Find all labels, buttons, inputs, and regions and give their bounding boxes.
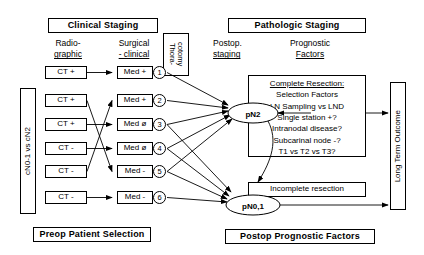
med-node-4-label: Med ø (124, 144, 147, 152)
path-number-1-label: 1 (157, 68, 161, 77)
med-node-2-label: Med + (124, 96, 146, 104)
med-node-4[interactable]: Med ø (117, 142, 153, 155)
left-axis-label: cN0-1 vs cN2 (24, 127, 32, 175)
complete-resection-item-4: Intranodal disease? (253, 123, 361, 134)
column-header-postop-line1: Postop. (213, 38, 261, 49)
complete-resection-item-2: LN Sampling vs LND (253, 101, 361, 112)
ct-node-6[interactable]: CT - (45, 191, 87, 204)
edge-4-pn01 (167, 149, 229, 197)
stage-node-pn01[interactable] (226, 195, 280, 215)
ct-node-2[interactable]: CT + (45, 94, 87, 107)
med-node-5[interactable]: Med - (117, 165, 153, 178)
path-number-1: 1 (153, 66, 166, 79)
column-header-radiographic-line2: graphic (40, 49, 96, 60)
clinical-staging-header-label: Clinical Staging (68, 21, 139, 30)
edge-2-pn2 (167, 101, 228, 109)
path-number-2-label: 2 (157, 96, 161, 105)
incomplete-resection-box: Incomplete resection (248, 182, 366, 197)
ct-node-2-label: CT + (57, 96, 74, 104)
ct-to-med-arrows (87, 73, 112, 198)
edge-4-pn2 (167, 115, 230, 149)
path-number-6: 6 (153, 191, 166, 204)
complete-resection-item-5: Subcarinal node -? (253, 135, 361, 146)
ct-node-6-label: CT - (58, 193, 73, 201)
path-number-4-label: 4 (157, 144, 161, 153)
footer-postop-label: Postop Prognostic Factors (240, 232, 360, 241)
med-to-stage-arrows (167, 73, 232, 203)
diagram-canvas: Clinical Staging Pathologic Staging Radi… (0, 0, 424, 255)
footer-postop-box: Postop Prognostic Factors (225, 229, 375, 244)
column-header-surgical-clinical: Surgical - clinical (103, 38, 165, 61)
column-header-postop-line2: staging (213, 49, 261, 60)
path-number-3-label: 3 (157, 120, 161, 129)
pathologic-staging-header-label: Pathologic Staging (254, 21, 339, 30)
path-number-4: 4 (153, 142, 166, 155)
footer-preop-label: Preop Patient Selection (39, 230, 144, 239)
med-node-5-label: Med - (125, 167, 145, 175)
complete-resection-item-6: T1 vs T2 vs T3? (253, 146, 361, 157)
incomplete-resection-label: Incomplete resection (270, 185, 344, 193)
edge-ct2-med5 (87, 101, 112, 172)
med-node-2[interactable]: Med + (117, 94, 153, 107)
med-node-3[interactable]: Med ø (117, 118, 153, 131)
ct-node-1[interactable]: CT + (45, 66, 87, 79)
path-number-5-label: 5 (157, 167, 161, 176)
ct-node-5[interactable]: CT - (45, 165, 87, 178)
footer-preop-box: Preop Patient Selection (33, 227, 151, 242)
edge-5-pn01 (167, 172, 227, 200)
right-axis-label: Long Term Outcome (394, 110, 402, 182)
ct-node-5-label: CT - (58, 167, 73, 175)
med-node-1-label: Med + (124, 68, 146, 76)
med-node-6-label: Med - (125, 193, 145, 201)
clinical-staging-header: Clinical Staging (48, 18, 158, 33)
ct-node-4[interactable]: CT - (45, 142, 87, 155)
med-node-1[interactable]: Med + (117, 66, 153, 79)
column-header-radiographic: Radio- graphic (40, 38, 96, 61)
right-axis-box: Long Term Outcome (390, 82, 406, 210)
pathologic-staging-header: Pathologic Staging (228, 18, 366, 33)
thoracotomy-label-line2: cotomy (176, 35, 184, 75)
ct-node-1-label: CT + (57, 68, 74, 76)
column-header-prognostic-line1: Prognostic (272, 38, 348, 49)
path-number-3: 3 (153, 118, 166, 131)
complete-resection-item-1: Selection Factors (253, 89, 361, 100)
thoracotomy-box: Thora- cotomy (163, 33, 189, 76)
edge-6-pn01 (167, 198, 227, 203)
column-header-prognostic-line2: Factors (272, 49, 348, 60)
thoracotomy-label-line1: Thora- (168, 35, 176, 75)
edge-ct5-med2 (87, 101, 112, 172)
med-node-3-label: Med ø (124, 120, 147, 128)
column-header-radiographic-line1: Radio- (40, 38, 96, 49)
edge-3-pn2 (167, 111, 228, 125)
column-header-surgical-line1: Surgical (103, 38, 165, 49)
complete-resection-box: Complete Resection: Selection Factors LN… (248, 75, 366, 157)
ct-node-3-label: CT + (57, 120, 74, 128)
complete-resection-item-3: Single station +? (253, 112, 361, 123)
column-header-surgical-line2: - clinical (103, 49, 165, 60)
left-axis-box: cN0-1 vs cN2 (20, 88, 36, 214)
edge-5-pn2 (167, 119, 232, 172)
column-header-prognostic-factors: Prognostic Factors (272, 38, 348, 61)
med-node-6[interactable]: Med - (117, 191, 153, 204)
complete-resection-title: Complete Resection: (253, 78, 361, 89)
ct-node-4-label: CT - (58, 144, 73, 152)
edge-3-pn01 (167, 125, 231, 193)
column-header-postop-staging: Postop. staging (213, 38, 261, 61)
edge-1-pn2 (167, 73, 228, 106)
ct-node-3[interactable]: CT + (45, 118, 87, 131)
path-number-6-label: 6 (157, 193, 161, 202)
stage-node-pn01-label: pN0,1 (242, 202, 264, 211)
path-number-5: 5 (153, 165, 166, 178)
path-number-2: 2 (153, 94, 166, 107)
